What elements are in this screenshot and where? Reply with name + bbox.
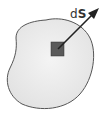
label-d: d	[70, 7, 78, 21]
surface-diagram	[0, 0, 102, 120]
vector-label: dS	[70, 8, 86, 20]
closed-surface	[7, 19, 93, 109]
label-s: S	[78, 7, 87, 21]
